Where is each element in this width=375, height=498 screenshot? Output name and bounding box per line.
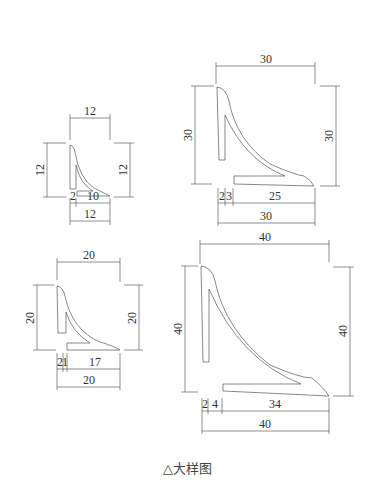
dim-right: 20 xyxy=(125,312,139,324)
profile-outline xyxy=(57,286,120,350)
dim-bottom-part: 2 xyxy=(70,189,76,203)
dim-top: 40 xyxy=(259,230,271,244)
dim-left: 40 xyxy=(171,323,185,335)
detail-12: 12 12 12 2 10 12 xyxy=(33,104,134,225)
detail-30: 30 30 30 2 3 25 30 xyxy=(181,52,340,226)
dim-left: 20 xyxy=(23,312,37,324)
dim-right: 12 xyxy=(116,164,130,176)
profile-outline xyxy=(217,87,314,186)
dim-bottom-part: 1 xyxy=(62,355,68,369)
dim-bottom-part: 2 xyxy=(219,189,225,203)
profile-outline xyxy=(201,266,329,396)
dim-bottom-part: 3 xyxy=(226,189,232,203)
dim-right: 30 xyxy=(322,130,336,142)
dim-bottom-part: 4 xyxy=(212,397,218,411)
dim-bottom-total: 30 xyxy=(260,209,272,223)
detail-40: 40 40 40 2 4 34 40 xyxy=(171,230,354,434)
dim-left: 30 xyxy=(181,129,195,141)
dim-bottom-part: 10 xyxy=(87,189,99,203)
dim-right: 40 xyxy=(336,325,350,337)
dim-bottom-total: 12 xyxy=(84,207,96,221)
detail-20: 20 20 20 2 1 17 20 xyxy=(23,248,143,390)
figure-caption: △大样图 xyxy=(0,458,375,477)
detail-drawings: 12 12 12 2 10 12 20 20 20 xyxy=(0,0,375,498)
dim-bottom-part: 17 xyxy=(89,355,101,369)
dim-bottom-part: 25 xyxy=(269,189,281,203)
dim-bottom-total: 20 xyxy=(83,373,95,387)
dim-top: 30 xyxy=(260,52,272,66)
dim-bottom-part: 2 xyxy=(202,397,208,411)
dim-left: 12 xyxy=(33,164,47,176)
dim-bottom-part: 34 xyxy=(269,397,281,411)
dim-top: 12 xyxy=(84,104,96,118)
dim-bottom-total: 40 xyxy=(259,417,271,431)
dim-top: 20 xyxy=(83,248,95,262)
